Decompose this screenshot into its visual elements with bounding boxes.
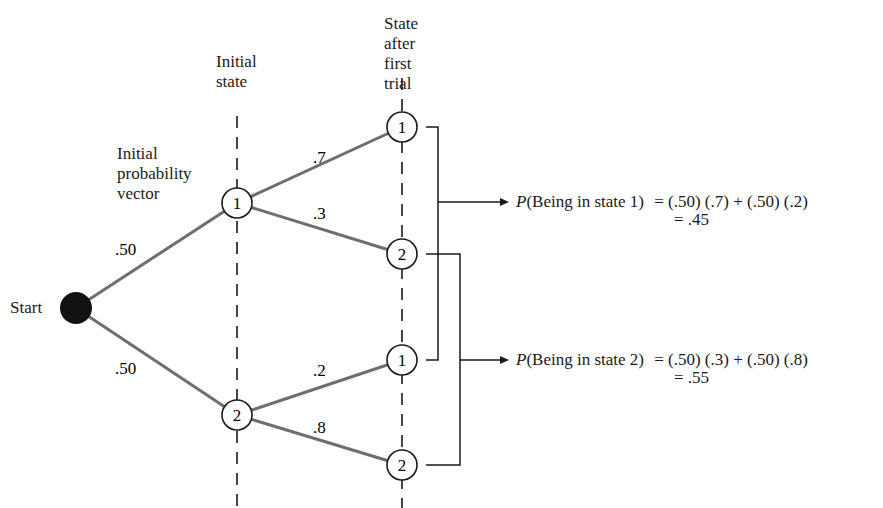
arrow-state-2-head bbox=[500, 356, 509, 364]
node-label: 1 bbox=[398, 118, 407, 137]
result-state-1: P(Being in state 1) = (.50) (.7) + (.50)… bbox=[516, 192, 808, 212]
expression: = (.50) (.3) + (.50) (.8) bbox=[654, 350, 808, 369]
arrow-state-1-head bbox=[500, 198, 509, 206]
expression: = (.50) (.7) + (.50) (.2) bbox=[654, 192, 808, 211]
prob-start-to-2: .50 bbox=[115, 359, 136, 378]
prob-2-to-2: .8 bbox=[313, 418, 326, 437]
prob-symbol: P bbox=[516, 350, 526, 369]
start-label: Start bbox=[10, 298, 42, 318]
node-label: 1 bbox=[233, 194, 242, 213]
prob-1-to-1: .7 bbox=[313, 148, 326, 167]
prob-symbol: P bbox=[516, 192, 526, 211]
node-initial-1: 1 bbox=[222, 188, 252, 218]
node-label: 2 bbox=[398, 245, 407, 264]
node-label: 1 bbox=[398, 351, 407, 370]
node-initial-2: 2 bbox=[222, 400, 252, 430]
prob-1-to-2: .3 bbox=[313, 204, 326, 223]
node-trial-1-from-1: 1 bbox=[387, 112, 417, 142]
branch-start-to-1 bbox=[76, 203, 237, 308]
node-label: 2 bbox=[233, 406, 242, 425]
node-trial-2-from-1: 2 bbox=[387, 239, 417, 269]
probability-tree: 1 2 1 2 1 2 .50 .50 .7 .3 .2 .8 bbox=[0, 0, 883, 508]
node-trial-1-from-2: 1 bbox=[387, 345, 417, 375]
result-state-1-value: = .45 bbox=[674, 210, 709, 230]
node-trial-2-from-2: 2 bbox=[387, 450, 417, 480]
prob-2-to-1: .2 bbox=[313, 361, 326, 380]
node-label: 2 bbox=[398, 456, 407, 475]
bracket-state-1 bbox=[426, 127, 438, 360]
event-text: (Being in state 1) bbox=[526, 192, 644, 211]
initial-probability-vector-label: Initial probability vector bbox=[117, 144, 192, 204]
start-node bbox=[60, 292, 92, 324]
prob-start-to-1: .50 bbox=[115, 240, 136, 259]
result-state-2: P(Being in state 2) = (.50) (.3) + (.50)… bbox=[516, 350, 808, 370]
event-text: (Being in state 2) bbox=[526, 350, 644, 369]
initial-state-header: Initial state bbox=[216, 52, 257, 92]
result-state-2-value: = .55 bbox=[674, 368, 709, 388]
branch-start-to-2 bbox=[76, 308, 237, 415]
first-trial-header: State after first trial bbox=[384, 14, 418, 94]
